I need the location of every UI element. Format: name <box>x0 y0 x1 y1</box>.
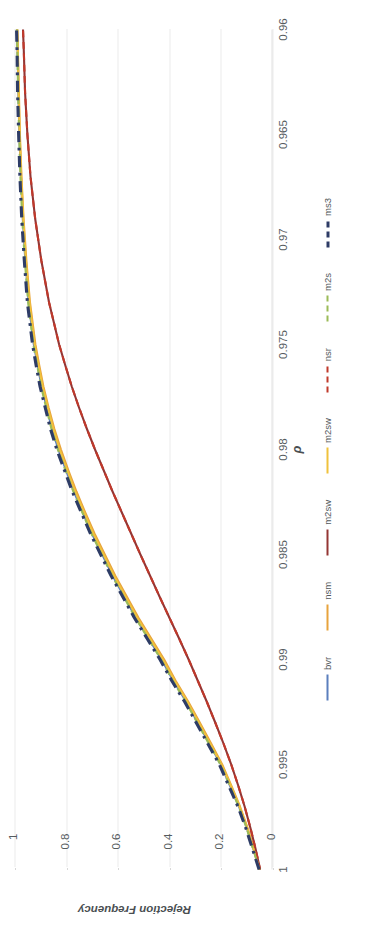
legend-label: m2s <box>322 273 332 291</box>
rejection-frequency-chart: 10.9950.990.9850.980.9750.970.9650.96 00… <box>0 0 392 943</box>
legend-swatch <box>326 366 328 392</box>
plot-area: 10.9950.990.9850.980.9750.970.9650.96 00… <box>14 29 272 869</box>
x-tick-label: 0.985 <box>276 524 288 584</box>
legend-swatch <box>326 295 328 321</box>
legend-item[interactable]: bvr <box>322 656 332 700</box>
legend-swatch <box>326 674 328 700</box>
x-tick-label: 0.965 <box>276 104 288 164</box>
legend-item[interactable]: nsm <box>322 581 332 630</box>
legend-swatch <box>326 221 329 247</box>
y-tick-label: 0.2 <box>212 833 224 879</box>
x-tick-label: 0.97 <box>276 209 288 269</box>
y-tick-label: 0 <box>264 833 276 879</box>
x-tick-label: 0.99 <box>276 629 288 689</box>
legend-item[interactable]: m2sw <box>322 418 332 474</box>
scanned-page: 10.9950.990.9850.980.9750.970.9650.96 00… <box>0 0 392 943</box>
x-tick-label: 0.96 <box>276 0 288 59</box>
legend-item[interactable]: nsr <box>322 347 332 391</box>
x-tick-label: 1 <box>276 839 288 899</box>
legend-label: bvr <box>322 656 332 669</box>
x-tick-label: 0.975 <box>276 314 288 374</box>
series-curves <box>14 29 272 869</box>
y-tick-label: 1 <box>6 833 18 879</box>
legend-label: nsm <box>322 581 332 599</box>
x-tick-label: 0.995 <box>276 734 288 794</box>
legend-item[interactable]: m2sw <box>322 499 332 555</box>
legend-label: m2sw <box>322 499 332 524</box>
x-tick-label: 0.98 <box>276 419 288 479</box>
x-axis-title: ρ <box>288 29 303 869</box>
legend-label: ms3 <box>322 198 332 216</box>
legend-swatch <box>326 447 328 473</box>
y-axis-title: Rejection Frequency <box>14 903 254 915</box>
y-tick-label: 0.4 <box>161 833 173 879</box>
legend-label: m2sw <box>322 418 332 443</box>
legend-label: nsr <box>322 347 332 360</box>
legend-swatch <box>326 529 328 555</box>
legend-item[interactable]: m2s <box>322 273 332 322</box>
y-tick-label: 0.8 <box>58 833 70 879</box>
legend-swatch <box>326 604 328 630</box>
legend-item[interactable]: ms3 <box>322 198 332 247</box>
chart-legend: bvrnsmm2swm2swnsrm2sms3 <box>316 29 338 869</box>
y-tick-label: 0.6 <box>109 833 121 879</box>
x-axis-line <box>271 29 272 869</box>
